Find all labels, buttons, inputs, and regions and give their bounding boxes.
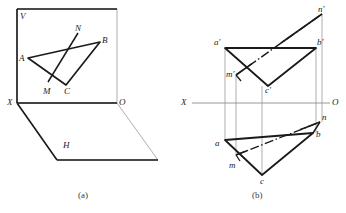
label-origin-b: O xyxy=(332,98,339,107)
figure-canvas: V H X O A B C M N (a) X O a' b' c' m' n'… xyxy=(0,0,346,213)
plane-h-parallelogram xyxy=(17,103,158,160)
label-vertex-B: B xyxy=(102,36,108,45)
label-b-front: b' xyxy=(317,38,323,47)
label-m-top: m xyxy=(229,161,236,170)
caption-a: (a) xyxy=(78,191,88,200)
label-a-front: a' xyxy=(214,38,220,47)
panel-a-group xyxy=(17,9,158,160)
tick-m-top xyxy=(236,155,240,161)
caption-b: (b) xyxy=(252,191,263,200)
label-x-axis-b: X xyxy=(181,98,187,107)
label-point-N: N xyxy=(75,24,81,33)
panel-b-group xyxy=(192,14,330,175)
label-point-M: M xyxy=(43,87,51,96)
label-c-front: c' xyxy=(265,86,271,95)
technical-drawing-svg xyxy=(0,0,346,213)
label-plane-h: H xyxy=(63,141,70,150)
plane-h-left-edge xyxy=(17,103,57,160)
label-origin-a: O xyxy=(119,98,126,107)
line-front-mn-visible-end xyxy=(281,14,322,43)
label-n-front: n' xyxy=(318,5,324,14)
label-vertex-C: C xyxy=(64,87,70,96)
label-a-top: a xyxy=(215,139,220,148)
label-vertex-A: A xyxy=(19,54,25,63)
label-m-front: m' xyxy=(226,70,234,79)
triangle-front-abc xyxy=(225,48,316,86)
label-c-top: c xyxy=(260,177,264,186)
triangle-abc xyxy=(28,42,100,85)
label-x-axis-a: X xyxy=(7,98,13,107)
label-n-top: n xyxy=(322,113,327,122)
label-plane-v: V xyxy=(20,12,26,21)
label-b-top: b xyxy=(316,130,321,139)
tick-m-front xyxy=(236,75,241,81)
